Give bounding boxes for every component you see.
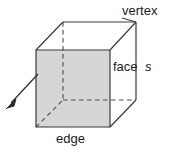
edge-pointer-arrow: [6, 74, 38, 109]
cube-drawing: [0, 0, 174, 153]
label-side-length-s: s: [145, 60, 152, 74]
label-face: face: [113, 60, 138, 74]
cube-edge-front-bottom-right-to-back-bottom-right: [110, 100, 136, 127]
label-edge: edge: [56, 132, 85, 146]
arrow-shaft: [11, 74, 38, 103]
cube-edge-front-top-right-to-back-top-right: [110, 22, 136, 50]
arrow-head: [6, 99, 16, 109]
cube-diagram-figure: vertex face s edge: [0, 0, 174, 153]
label-vertex: vertex: [122, 4, 157, 18]
cube-edge-front-top-left-to-back-top-left: [36, 22, 63, 50]
